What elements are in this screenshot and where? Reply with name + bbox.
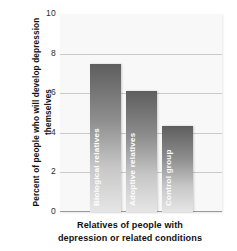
y-axis-title: Percent of people who will develop depre… [31, 12, 54, 212]
y-tick-label-4: 4 [34, 127, 56, 137]
y-tick-label-6: 6 [34, 87, 56, 97]
bar-chart-figure: Percent of people who will develop depre… [0, 0, 237, 251]
bar-control-group[interactable]: Control group [162, 126, 193, 212]
y-tick-label-10: 10 [34, 8, 56, 18]
bar-label-adoptive-relatives: Adoptive relatives [128, 133, 137, 206]
x-axis-title-line-2: depression or related conditions [30, 232, 230, 245]
x-axis-title: Relatives of people with depression or r… [30, 219, 230, 244]
plot-area: Biological relativesAdoptive relativesCo… [60, 14, 222, 212]
x-axis-title-line-1: Relatives of people with [30, 219, 230, 232]
y-tick-label-0: 0 [34, 206, 56, 216]
bar-biological-relatives[interactable]: Biological relatives [90, 64, 121, 213]
gridline-8 [60, 54, 222, 55]
bar-adoptive-relatives[interactable]: Adoptive relatives [126, 91, 157, 212]
bar-label-control-group: Control group [164, 149, 173, 206]
y-tick-label-8: 8 [34, 48, 56, 58]
y-axis-title-container: Percent of people who will develop depre… [0, 0, 34, 215]
y-tick-label-2: 2 [34, 166, 56, 176]
bar-label-biological-relatives: Biological relatives [92, 128, 101, 206]
